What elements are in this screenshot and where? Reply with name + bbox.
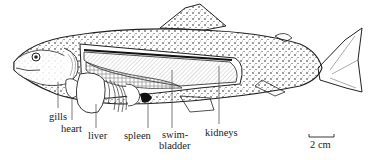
scale-bar bbox=[309, 134, 334, 137]
label-swim-bladder-2: bladder bbox=[159, 141, 191, 151]
liver-shape bbox=[76, 73, 105, 113]
tail-fin bbox=[318, 28, 362, 92]
label-gills: gills bbox=[49, 112, 67, 122]
dorsal-fin bbox=[160, 4, 226, 30]
label-liver: liver bbox=[88, 131, 107, 141]
scale-bar-label: 2 cm bbox=[310, 140, 331, 150]
label-heart: heart bbox=[61, 124, 82, 134]
label-kidneys: kidneys bbox=[205, 128, 238, 138]
label-spleen: spleen bbox=[124, 131, 151, 141]
label-swim-bladder-1: swim- bbox=[162, 130, 188, 140]
